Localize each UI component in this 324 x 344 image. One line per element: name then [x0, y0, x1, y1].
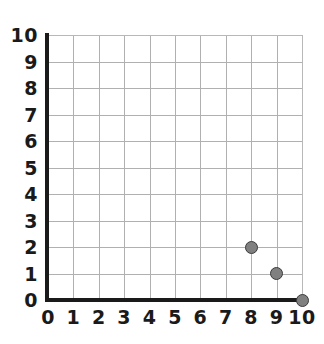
- x-axis-tick-label: 10: [288, 306, 315, 328]
- x-axis-line: [45, 298, 304, 302]
- y-axis-tick-label: 5: [24, 157, 38, 179]
- x-axis-tick-label: 1: [67, 306, 81, 328]
- y-axis-tick-label: 10: [11, 24, 38, 46]
- data-point: [296, 294, 309, 307]
- x-axis-tick-label: 4: [143, 306, 157, 328]
- x-axis-tick-label: 5: [168, 306, 182, 328]
- gridline-horizontal: [48, 115, 302, 116]
- x-axis-tick-label: 3: [117, 306, 131, 328]
- gridline-horizontal: [48, 194, 302, 195]
- y-axis-tick-label: 8: [24, 77, 38, 99]
- gridline-horizontal: [48, 141, 302, 142]
- gridline-horizontal: [48, 247, 302, 248]
- gridline-horizontal: [48, 168, 302, 169]
- gridline-horizontal: [48, 62, 302, 63]
- y-axis-line: [45, 33, 49, 302]
- x-axis-tick-label: 2: [92, 306, 106, 328]
- gridline-horizontal: [48, 274, 302, 275]
- x-axis-tick-label: 0: [41, 306, 55, 328]
- gridline-horizontal: [48, 221, 302, 222]
- scatter-plot-figure: 012345678910012345678910: [0, 0, 324, 344]
- gridline-vertical: [302, 35, 303, 300]
- data-point: [270, 267, 283, 280]
- y-axis-tick-label: 9: [24, 51, 38, 73]
- gridline-horizontal: [48, 88, 302, 89]
- x-axis-tick-label: 6: [194, 306, 208, 328]
- plot-area: [48, 35, 302, 300]
- x-axis-tick-label: 9: [270, 306, 284, 328]
- y-axis-tick-label: 1: [24, 263, 38, 285]
- x-axis-tick-label: 8: [244, 306, 258, 328]
- y-axis-tick-label: 4: [24, 183, 38, 205]
- data-point: [245, 241, 258, 254]
- y-axis-tick-label: 2: [24, 236, 38, 258]
- y-axis-tick-label: 0: [24, 289, 38, 311]
- y-axis-tick-label: 7: [24, 104, 38, 126]
- y-axis-tick-label: 3: [24, 210, 38, 232]
- gridline-horizontal: [48, 35, 302, 36]
- x-axis-tick-label: 7: [219, 306, 233, 328]
- y-axis-tick-label: 6: [24, 130, 38, 152]
